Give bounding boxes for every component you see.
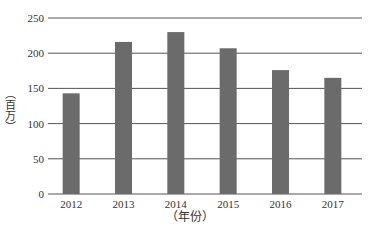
y-tick-label: 200: [28, 47, 45, 59]
bar-2012: [63, 93, 80, 194]
x-tick-label: 2016: [270, 198, 293, 210]
bar-2016: [272, 70, 289, 194]
x-tick-label: 2015: [217, 198, 240, 210]
x-tick-label: 2012: [60, 198, 82, 210]
bar-chart: 050100150200250201220132014201520162017 …: [0, 0, 372, 234]
bar-2014: [167, 32, 184, 194]
x-tick-label: 2013: [113, 198, 136, 210]
bar-2015: [220, 48, 237, 194]
y-tick-label: 100: [28, 118, 45, 130]
x-axis-label: （年份）: [166, 207, 214, 225]
y-tick-label: 0: [39, 188, 45, 200]
y-tick-label: 250: [28, 12, 45, 24]
chart-plot-area: 050100150200250201220132014201520162017: [0, 0, 372, 234]
y-tick-label: 150: [28, 82, 45, 94]
x-tick-label: 2017: [322, 198, 345, 210]
bar-2013: [115, 42, 132, 194]
y-tick-label: 50: [33, 153, 45, 165]
y-axis-label: （百万）: [4, 80, 18, 140]
bar-2017: [324, 78, 341, 194]
